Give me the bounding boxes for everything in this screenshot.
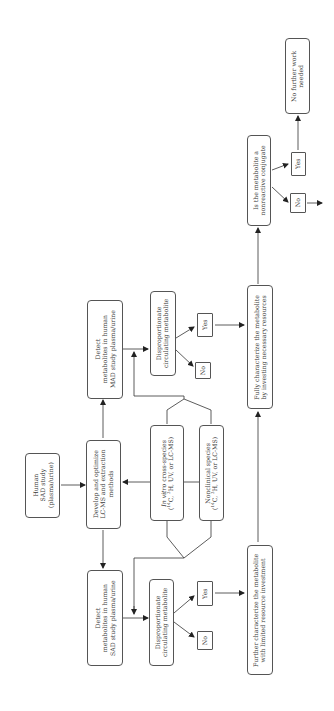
no-further-work-label: No further work needed xyxy=(290,50,305,101)
no-bottom-box: No xyxy=(197,631,213,650)
disproportionate-top-label: Disproportionate circulating metabolite xyxy=(156,299,171,368)
in-vitro-box: In vitro cross-species (14C, 3H, UV, or … xyxy=(150,425,184,521)
no-top-label: No xyxy=(199,366,206,375)
yes-conjugate-label: Yes xyxy=(295,159,302,169)
nonclinical-methods: (14C, 3H, UV, or LC-MS) xyxy=(212,437,219,510)
in-vitro-methods: (14C, 3H, UV, or LC-MS) xyxy=(167,437,174,510)
further-characterize-box: Further characterize the metabolite with… xyxy=(247,545,273,675)
further-characterize-label: Further characterize the metabolite with… xyxy=(253,553,268,666)
human-sad-study-label: Human SAD study (plasma/urine) xyxy=(31,463,53,509)
develop-optimize-box: Develop and optimize LC-MS and extractio… xyxy=(86,440,121,529)
disproportionate-bottom-box: Disproportionate circulating metabolite xyxy=(149,579,174,666)
fully-characterize-box: Fully characterize the metabolite by inv… xyxy=(247,285,273,409)
yes-bottom-box: Yes xyxy=(197,581,213,606)
no-top-box: No xyxy=(195,362,211,379)
yes-top-box: Yes xyxy=(197,313,213,337)
no-bottom-label: No xyxy=(201,636,208,645)
conjugate-question-box: Is the metabolite a nonreactive conjugat… xyxy=(247,135,271,226)
in-vitro-label: In vitro cross-species (14C, 3H, UV, or … xyxy=(160,437,175,510)
disproportionate-bottom-label: Disproportionate circulating metabolite xyxy=(154,588,169,657)
detect-sad-label: Detect metabolites in human SAD study pl… xyxy=(94,580,116,656)
detect-mad-label: Detect metabolites in human MAD study pl… xyxy=(94,311,116,389)
no-conjugate-label: No xyxy=(294,198,301,207)
fully-characterize-label: Fully characterize the metabolite by inv… xyxy=(253,295,268,400)
yes-top-label: Yes xyxy=(201,320,208,330)
detect-sad-box: Detect metabolites in human SAD study pl… xyxy=(87,570,123,666)
yes-conjugate-box: Yes xyxy=(291,152,306,176)
yes-bottom-label: Yes xyxy=(201,588,208,598)
nonclinical-label: Nonclinical species (14C, 3H, UV, or LC-… xyxy=(204,437,219,510)
develop-optimize-label: Develop and optimize LC-MS and extractio… xyxy=(92,450,114,519)
no-further-work-box: No further work needed xyxy=(285,38,310,114)
detect-mad-box: Detect metabolites in human MAD study pl… xyxy=(87,300,123,399)
human-sad-study-box: Human SAD study (plasma/urine) xyxy=(25,453,60,518)
nonclinical-box: Nonclinical species (14C, 3H, UV, or LC-… xyxy=(199,425,224,521)
conjugate-question-label: Is the metabolite a nonreactive conjugat… xyxy=(252,146,267,216)
disproportionate-top-box: Disproportionate circulating metabolite xyxy=(150,291,176,376)
no-conjugate-box: No xyxy=(290,193,306,213)
